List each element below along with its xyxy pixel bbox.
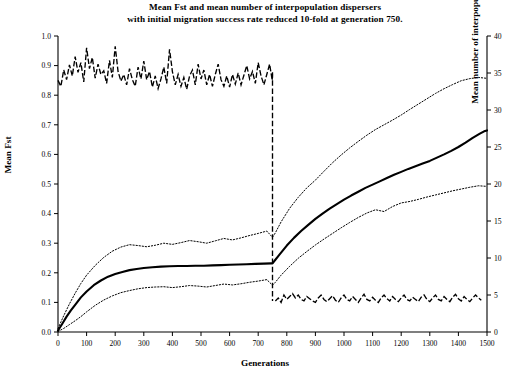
y-right-tick-label: 15 — [494, 217, 502, 226]
y-left-tick-label: 0.2 — [42, 269, 52, 278]
x-tick-label: 1300 — [422, 339, 437, 348]
y-axis-left-label: Mean Fst — [3, 95, 13, 215]
x-tick-label: 100 — [81, 339, 93, 348]
y-right-tick-label: 25 — [494, 143, 502, 152]
x-tick-label: 200 — [110, 339, 122, 348]
y-right-tick-label: 30 — [494, 106, 502, 115]
x-tick-label: 1100 — [365, 339, 380, 348]
y-right-tick-label: 35 — [494, 69, 502, 78]
y-right-tick-label: 10 — [494, 254, 502, 263]
y-axis-right-label: Mean number of interpopulation disperser… — [470, 0, 480, 118]
y-left-tick-label: 0.8 — [42, 91, 52, 100]
y-right-tick-label: 20 — [494, 180, 502, 189]
y-right-tick-label: 0 — [494, 328, 498, 337]
x-tick-label: 500 — [195, 339, 207, 348]
x-tick-label: 600 — [224, 339, 236, 348]
x-tick-label: 700 — [253, 339, 265, 348]
y-right-tick-label: 40 — [494, 32, 502, 41]
x-axis-label: Generations — [0, 358, 530, 368]
y-left-tick-label: 0.3 — [42, 239, 52, 248]
x-tick-label: 1000 — [336, 339, 351, 348]
data-series — [58, 46, 487, 331]
x-tick-label: 400 — [167, 339, 179, 348]
x-tick-label: 1400 — [451, 339, 466, 348]
x-tick-label: 1500 — [479, 339, 494, 348]
x-tick-label: 900 — [310, 339, 322, 348]
y-left-tick-label: 1.0 — [42, 32, 52, 41]
dispersers-line-post-intervention — [275, 294, 481, 303]
y-left-tick-label: 0.7 — [42, 121, 52, 130]
figure: Mean Fst and mean number of interpopulat… — [0, 0, 530, 373]
x-tick-label: 1200 — [394, 339, 409, 348]
y-left-tick-label: 0.0 — [42, 328, 52, 337]
dispersers-line-pre-intervention — [58, 46, 273, 89]
y-right-tick-label: 5 — [494, 291, 498, 300]
y-left-tick-label: 0.5 — [42, 180, 52, 189]
y-left-tick-label: 0.4 — [42, 209, 52, 218]
x-tick-label: 800 — [281, 339, 293, 348]
chart-canvas: 0100200300400500600700800900100011001200… — [0, 0, 530, 373]
y-left-tick-label: 0.1 — [42, 298, 52, 307]
y-left-tick-label: 0.6 — [42, 150, 52, 159]
y-left-tick-label: 0.9 — [42, 61, 52, 70]
x-tick-label: 0 — [56, 339, 60, 348]
x-tick-label: 300 — [138, 339, 150, 348]
